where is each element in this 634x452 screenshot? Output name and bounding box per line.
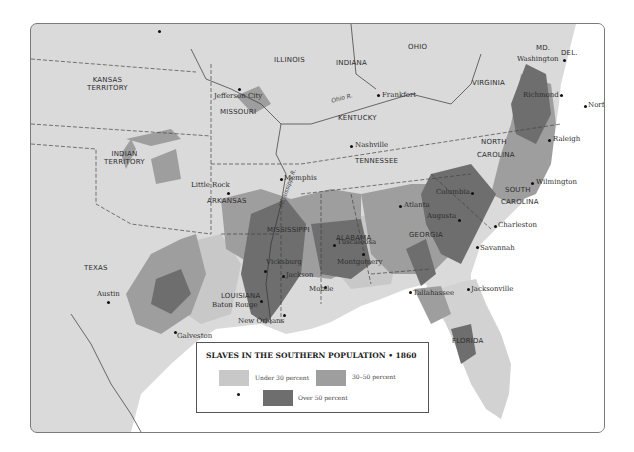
state-label-tennessee: TENNESSEE [355, 157, 398, 165]
legend-swatch-30-50 [316, 370, 346, 386]
city-augusta: Augusta [427, 212, 456, 220]
city-dot [260, 300, 263, 303]
city-dot [409, 291, 412, 294]
legend-label-under-30: Under 30 percent [255, 374, 309, 381]
city-atlanta: Atlanta [404, 201, 430, 209]
state-label-south-carolina: SOUTHCAROLINA [505, 184, 539, 208]
city-jacksonville: Jacksonville [471, 285, 513, 293]
city-dot [238, 88, 241, 91]
city-tallahassee: Tallahassee [413, 289, 454, 297]
city-dot [494, 225, 497, 228]
city-dot [563, 59, 566, 62]
legend-title: SLAVES IN THE SOUTHERN POPULATION • 1860 [206, 351, 416, 360]
state-label-georgia: GEORGIA [409, 231, 443, 239]
city-austin: Austin [97, 290, 120, 298]
state-label-florida: FLORIDA [452, 337, 484, 345]
city-dot [584, 105, 587, 108]
city-mobile: Mobile [309, 285, 333, 293]
city-wilmington: Wilmington [536, 178, 577, 186]
city-vicksburg: Vicksburg [266, 258, 302, 266]
legend-label-over-50: Over 50 percent [298, 394, 348, 401]
city-savannah: Savannah [480, 244, 515, 252]
city-dot [333, 244, 336, 247]
state-label-indiana: INDIANA [336, 59, 367, 67]
state-label-kentucky: KENTUCKY [338, 114, 377, 122]
state-label-ohio: OHIO [408, 43, 427, 51]
city-dot [362, 253, 365, 256]
city-jackson: Jackson [286, 271, 313, 279]
city-memphis: Memphis [284, 174, 317, 182]
city-dot [476, 246, 479, 249]
city-tuscaloosa: Tuscaloosa [337, 238, 376, 246]
state-label-texas: TEXAS [84, 264, 108, 272]
city-new-orleans: New Orleans [238, 317, 284, 325]
state-label-maryland: MD. [536, 44, 550, 52]
city-dot [548, 139, 551, 142]
city-dot [458, 219, 461, 222]
city-dot [467, 288, 470, 291]
city-norfolk: Norfolk [588, 101, 605, 109]
city-charleston: Charleston [498, 221, 537, 229]
map-legend: SLAVES IN THE SOUTHERN POPULATION • 1860… [196, 342, 429, 413]
state-label-illinois: ILLINOIS [274, 56, 305, 64]
city-richmond: Richmond [523, 91, 559, 99]
city-dot [107, 301, 110, 304]
legend-dot [237, 393, 240, 396]
city-dot [377, 94, 380, 97]
city-dot [399, 205, 402, 208]
city-frankfort: Frankfort [382, 91, 416, 99]
legend-label-30-50: 30–50 percent [352, 373, 396, 380]
city-washington: Washington [517, 55, 559, 63]
legend-swatch-over-50 [263, 390, 293, 406]
city-baton-rouge: Baton Rouge [212, 301, 258, 309]
city-dot [227, 192, 230, 195]
city-dot [282, 275, 285, 278]
state-label-arkansas: ARKANSAS [207, 197, 247, 205]
city-nashville: Nashville [355, 141, 388, 149]
city-galveston: Galveston [177, 332, 212, 340]
legend-swatch-under-30 [219, 370, 249, 386]
city-dot [531, 182, 534, 185]
city-dot [264, 270, 267, 273]
state-label-kansas: KANSASTERRITORY [87, 76, 128, 92]
city-raleigh: Raleigh [553, 135, 580, 143]
state-label-mississippi: MISSISSIPPI [267, 226, 310, 234]
state-label-virginia: VIRGINIA [472, 79, 505, 87]
city-dot [280, 178, 283, 181]
city-dot [471, 192, 474, 195]
state-label-delaware: DEL. [561, 49, 578, 57]
state-label-missouri: MISSOURI [220, 108, 256, 116]
city-columbia: Columbia [436, 188, 470, 196]
state-label-north-carolina: NORTHCAROLINA [481, 136, 515, 162]
state-label-louisiana: LOUISIANA [221, 292, 260, 300]
city-little-rock: Little Rock [191, 181, 230, 189]
city-dot [350, 145, 353, 148]
state-label-indian-territory: INDIANTERRITORY [104, 150, 145, 166]
city-dot [158, 30, 161, 33]
city-jefferson-city: Jefferson City [214, 92, 262, 100]
city-montgomery: Montgomery [337, 258, 382, 266]
city-dot [560, 94, 563, 97]
